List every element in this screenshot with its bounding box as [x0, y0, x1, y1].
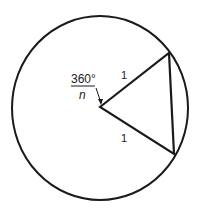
- angle-denominator: n: [79, 88, 86, 102]
- circle-triangle-diagram: 360° n 1 1: [0, 0, 198, 210]
- angle-numerator: 360°: [71, 72, 96, 86]
- side-label-top: 1: [121, 69, 127, 81]
- side-label-bottom: 1: [121, 132, 127, 144]
- triangle: [100, 53, 174, 154]
